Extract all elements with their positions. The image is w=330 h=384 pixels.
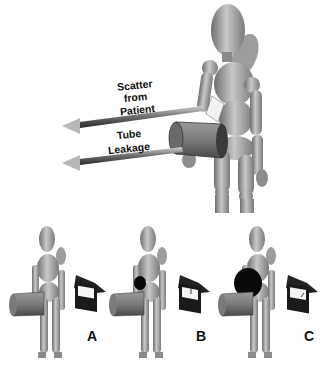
scenario-b: B	[109, 226, 210, 358]
tube-c	[218, 292, 253, 316]
meter-c	[286, 275, 318, 313]
svg-text:Tube: Tube	[116, 127, 142, 141]
meter-b	[178, 275, 210, 313]
leakage-label: Tube Leakage	[107, 127, 150, 156]
scenario-c: C	[218, 226, 318, 358]
tube-b	[109, 292, 144, 316]
scenario-label-c: C	[304, 328, 314, 344]
mannequin-figure-a	[32, 226, 66, 358]
scenario-a: A	[9, 226, 106, 358]
shield-small	[134, 276, 146, 290]
tube-a	[9, 292, 44, 316]
scenario-label-b: B	[196, 328, 206, 344]
mannequin-figure-b	[133, 226, 167, 358]
meter-a	[74, 275, 106, 312]
scenario-label-a: A	[87, 328, 97, 344]
radiation-scatter-diagram: Scatter from Patient Tube Leakage	[0, 0, 330, 384]
svg-text:from: from	[123, 90, 147, 104]
scatter-label: Scatter from Patient	[116, 77, 156, 117]
